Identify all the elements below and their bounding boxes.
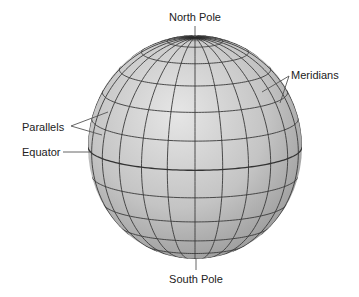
meridians-label: Meridians [291,69,339,81]
equator-label: Equator [22,146,61,158]
north-pole-label: North Pole [169,11,221,23]
globe-diagram: North Pole South Pole Meridians Parallel… [0,0,359,297]
south-pole-label: South Pole [169,273,223,285]
parallels-label: Parallels [22,121,65,133]
